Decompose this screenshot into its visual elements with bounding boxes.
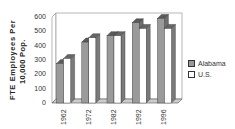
legend: Alabama U.S. xyxy=(188,58,226,80)
x-tick: 1982 xyxy=(110,109,117,125)
legend-swatch-us xyxy=(188,71,195,78)
legend-label: U.S. xyxy=(198,71,212,78)
legend-label: Alabama xyxy=(198,60,226,67)
x-tick: 1962 xyxy=(60,109,67,125)
legend-item-us: U.S. xyxy=(188,69,226,80)
legend-item-alabama: Alabama xyxy=(188,58,226,69)
x-tick: 1972 xyxy=(85,109,92,125)
x-tick: 1992 xyxy=(135,109,142,125)
x-tick: 1996 xyxy=(160,109,167,125)
legend-swatch-alabama xyxy=(188,60,195,67)
